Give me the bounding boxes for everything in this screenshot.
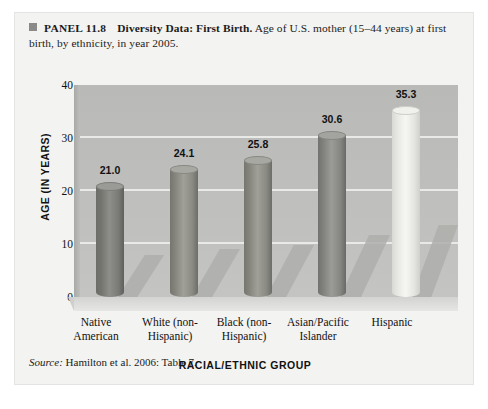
bar-shadow-3	[340, 235, 390, 297]
bar-body	[318, 135, 346, 297]
source-prefix: Source:	[29, 356, 63, 368]
bar-chart: AGE (IN YEARS) 40 30 20 10 0 21.0	[15, 71, 475, 329]
bar-white-non-hispanic[interactable]: 24.1	[170, 169, 198, 297]
caption-headline: Diversity Data: First Birth.	[117, 22, 252, 34]
y-axis-title: AGE (IN YEARS)	[39, 107, 51, 247]
x-label-line-2: Islander	[272, 329, 364, 343]
bar-body	[244, 160, 272, 297]
bar-value-label: 30.6	[302, 113, 362, 125]
plot-left-wall	[74, 85, 80, 297]
plot-floor	[74, 297, 458, 311]
bar-cap	[170, 165, 198, 174]
y-tick-40: 40	[39, 79, 73, 91]
bar-black-non-hispanic[interactable]: 25.8	[244, 160, 272, 297]
bar-value-label: 35.3	[376, 88, 436, 100]
bar-asian-pacific-islander[interactable]: 30.6	[318, 135, 346, 297]
panel-number: PANEL 11.8	[44, 22, 106, 34]
y-tick-20: 20	[39, 185, 73, 197]
bar-value-label: 25.8	[228, 138, 288, 150]
panel-container: PANEL 11.8Diversity Data: First Birth. A…	[14, 12, 474, 385]
square-bullet-icon	[29, 23, 37, 31]
bar-shadow-0	[118, 255, 164, 297]
bar-cap	[96, 182, 124, 191]
plot-area: 21.0 24.1 25.8 30.6	[74, 85, 458, 297]
source-note: Source: Hamilton et al. 2006: Table 7.	[29, 356, 197, 368]
bar-cap	[392, 106, 420, 115]
bar-value-label: 24.1	[154, 147, 214, 159]
bar-body	[96, 186, 124, 297]
bar-value-label: 21.0	[80, 164, 140, 176]
bar-native-american[interactable]: 21.0	[96, 186, 124, 297]
bar-cap	[318, 131, 346, 140]
bar-shadow-2	[266, 245, 314, 297]
source-text: Hamilton et al. 2006: Table 7.	[63, 356, 197, 368]
bar-shadow-1	[192, 249, 240, 297]
x-label-line-1: Hispanic	[346, 315, 438, 329]
y-tick-30: 30	[39, 132, 73, 144]
bar-hispanic[interactable]: 35.3	[392, 110, 420, 297]
panel-caption: PANEL 11.8Diversity Data: First Birth. A…	[29, 21, 461, 50]
y-tick-10: 10	[39, 238, 73, 250]
bar-body	[170, 169, 198, 297]
bar-body	[392, 110, 420, 297]
x-label-hispanic: Hispanic	[346, 315, 438, 329]
bar-cap	[244, 156, 272, 165]
